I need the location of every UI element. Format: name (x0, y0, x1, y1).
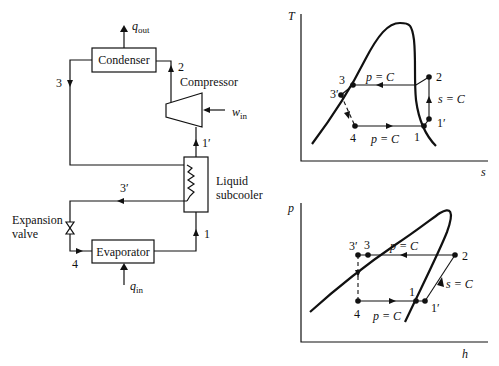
ts-state-3prime: 3′ (330, 87, 339, 101)
ph-state-4: 4 (354, 307, 360, 321)
state-1-label: 1 (204, 227, 210, 241)
subcooler-label-1: Liquid (216, 174, 248, 188)
refrigeration-cycle-figure: Condenser Evaporator Compressor Liquid s… (0, 0, 499, 366)
ph-x-axis-label: h (462, 347, 468, 361)
state-4-label: 4 (72, 257, 78, 271)
ph-state-1: 1 (409, 285, 415, 299)
ts-state-2: 2 (436, 70, 442, 84)
q-out-label: qout (132, 19, 150, 35)
condenser-label: Condenser (98, 53, 149, 67)
w-in-label: win (232, 105, 248, 121)
ts-p-const-top: p = C (365, 70, 395, 84)
expansion-valve-symbol (66, 222, 74, 234)
ph-s-const: s = C (446, 277, 474, 291)
ts-state-1prime: 1′ (437, 116, 446, 130)
expansion-valve-label-2: valve (12, 227, 38, 241)
ts-p-const-bottom: p = C (370, 132, 400, 146)
state-3prime-label: 3′ (120, 181, 129, 195)
ts-state-4: 4 (350, 131, 356, 145)
ts-y-axis-label: T (288, 9, 296, 23)
ph-p-const-top: p = C (389, 239, 419, 253)
subcooler-label-2: subcooler (216, 188, 263, 202)
ph-state-3prime: 3′ (349, 239, 358, 253)
ph-state-3: 3 (364, 238, 370, 252)
ph-p-const-bottom: p = C (372, 309, 402, 323)
state-3-label: 3 (56, 76, 62, 90)
ph-y-axis-label: p (287, 201, 294, 215)
q-in-label: qin (130, 279, 144, 295)
ts-s-const: s = C (438, 92, 466, 106)
ph-state-2: 2 (462, 249, 468, 263)
ts-state-1: 1 (414, 130, 420, 144)
ts-x-axis-label: s (481, 165, 486, 179)
pipe-2 (156, 61, 171, 102)
expansion-valve-label-1: Expansion (12, 213, 63, 227)
state-1prime-label: 1′ (202, 136, 211, 150)
ph-state-points (355, 252, 458, 304)
ph-state-1prime: 1′ (431, 301, 440, 315)
pipe-1 (154, 212, 196, 251)
ts-state-3: 3 (339, 73, 345, 87)
ph-saturation-dome (310, 210, 451, 322)
state-2-label: 2 (178, 60, 184, 74)
compressor-label: Compressor (180, 75, 238, 89)
evaporator-label: Evaporator (96, 245, 149, 259)
